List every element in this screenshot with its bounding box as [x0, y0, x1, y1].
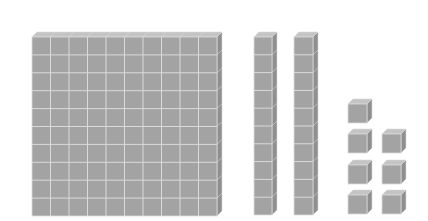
hundreds-flat-group: [32, 32, 222, 216]
unit-cube: [348, 160, 372, 184]
hundred-flat: [32, 32, 222, 216]
unit-cube: [382, 190, 406, 214]
unit-cube: [348, 190, 372, 214]
unit-cube: [348, 99, 372, 123]
ones-cubes-group: [348, 99, 406, 214]
ten-rod: [254, 32, 277, 215]
unit-cube: [382, 129, 406, 153]
unit-cube: [382, 160, 406, 184]
tens-rods-group: [254, 32, 318, 215]
unit-cube: [348, 129, 372, 153]
ten-rod: [294, 32, 318, 215]
base-ten-blocks-diagram: [0, 0, 428, 221]
